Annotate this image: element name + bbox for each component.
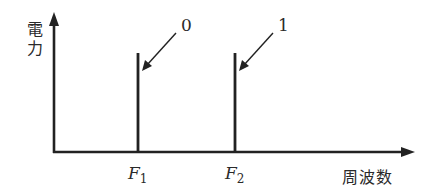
y-axis-label-char-1: 電	[27, 20, 45, 39]
x-axis-label: 周波数	[342, 164, 393, 188]
x-axis-arrowhead-icon	[401, 147, 415, 157]
f2-label-sub: 2	[237, 172, 245, 186]
f1-label-sub: 1	[140, 172, 148, 186]
f2-label: F2	[225, 163, 244, 186]
symbol-0-label: 0	[181, 15, 192, 35]
y-axis-arrowhead-icon	[49, 12, 59, 26]
pointer-arrow-1	[244, 33, 273, 65]
y-axis-label-char-2: 力	[27, 39, 45, 58]
f1-label: F1	[128, 163, 147, 186]
y-axis-label: 電 力	[27, 20, 45, 58]
pointer-arrow-0	[147, 33, 176, 65]
symbol-1-label: 1	[278, 15, 289, 35]
f2-label-main: F	[225, 163, 237, 183]
f1-label-main: F	[128, 163, 140, 183]
